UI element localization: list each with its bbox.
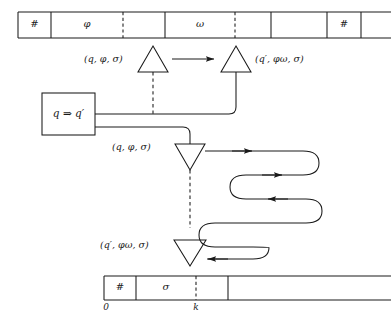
bottom-tape-index-0: 0 xyxy=(103,303,109,312)
bottom-tape-cell-symbol: # xyxy=(116,282,124,292)
read-head-up-left-label: (q, φ, σ) xyxy=(84,54,123,64)
write-head-up-right-label: (q′, φω, σ) xyxy=(255,54,304,64)
bottom-tape-outline xyxy=(104,276,391,300)
diagram-canvas: # φ ω # # σ 0 k q ⇒ q′ (q, φ, σ) (q′, φω… xyxy=(0,0,391,318)
write-head-down-bottom-label: (q′, φω, σ) xyxy=(100,240,149,250)
read-head-down-mid-glyph xyxy=(175,144,205,170)
diagram-vector-layer xyxy=(0,0,391,318)
write-head-up-right-glyph xyxy=(221,46,251,72)
top-tape-cell-symbol: # xyxy=(340,19,348,29)
bottom-tape-cell-symbol: σ xyxy=(163,282,170,292)
serpentine-feedback-path xyxy=(199,151,322,259)
top-tape-dashed-dividers xyxy=(123,12,235,38)
top-tape-cell-symbol: # xyxy=(30,19,38,29)
write-head-down-bottom-glyph xyxy=(174,240,206,266)
read-head-up-left-glyph xyxy=(138,46,168,72)
top-tape-cell-symbol: ω xyxy=(196,19,204,29)
top-tape-cell-symbol: φ xyxy=(83,19,90,29)
top-tape-outline xyxy=(18,12,391,38)
read-head-down-mid-label: (q, φ, σ) xyxy=(112,142,151,152)
wire-right-head-to-box xyxy=(95,72,236,114)
state-transition-box-label: q ⇒ q′ xyxy=(53,108,84,119)
bottom-tape-index-k: k xyxy=(193,303,198,312)
